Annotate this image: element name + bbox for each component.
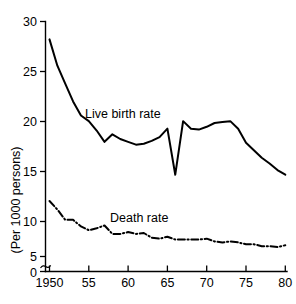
y-tick-label-15: 15 <box>23 165 37 179</box>
y-axis: 30 25 20 15 10 5 0 (Per 1000 persons) <box>9 15 51 280</box>
y-tick-label-10: 10 <box>23 215 37 229</box>
x-tick-label-55: 55 <box>82 276 96 290</box>
y-tick-label-25: 25 <box>23 65 37 79</box>
y-tick-label-5: 5 <box>30 250 37 264</box>
chart-figure: 30 25 20 15 10 5 0 (Per 1000 persons) 19… <box>0 0 296 304</box>
series-label-death-rate: Death rate <box>110 211 168 225</box>
x-tick-label-1950: 1950 <box>36 276 64 290</box>
y-axis-title: (Per 1000 persons) <box>9 146 23 253</box>
series-label-live-birth-rate: Live birth rate <box>85 107 161 121</box>
x-tick-label-65: 65 <box>160 276 174 290</box>
y-tick-label-30: 30 <box>23 15 37 29</box>
x-axis: 1950 55 60 65 70 75 80 <box>36 266 293 291</box>
x-tick-label-70: 70 <box>200 276 214 290</box>
x-tick-label-80: 80 <box>278 276 292 290</box>
y-tick-label-20: 20 <box>23 115 37 129</box>
x-tick-label-75: 75 <box>239 276 253 290</box>
series-annotations: Live birth rate Death rate <box>85 107 168 225</box>
line-chart: 30 25 20 15 10 5 0 (Per 1000 persons) 19… <box>0 0 296 304</box>
x-tick-label-60: 60 <box>121 276 135 290</box>
